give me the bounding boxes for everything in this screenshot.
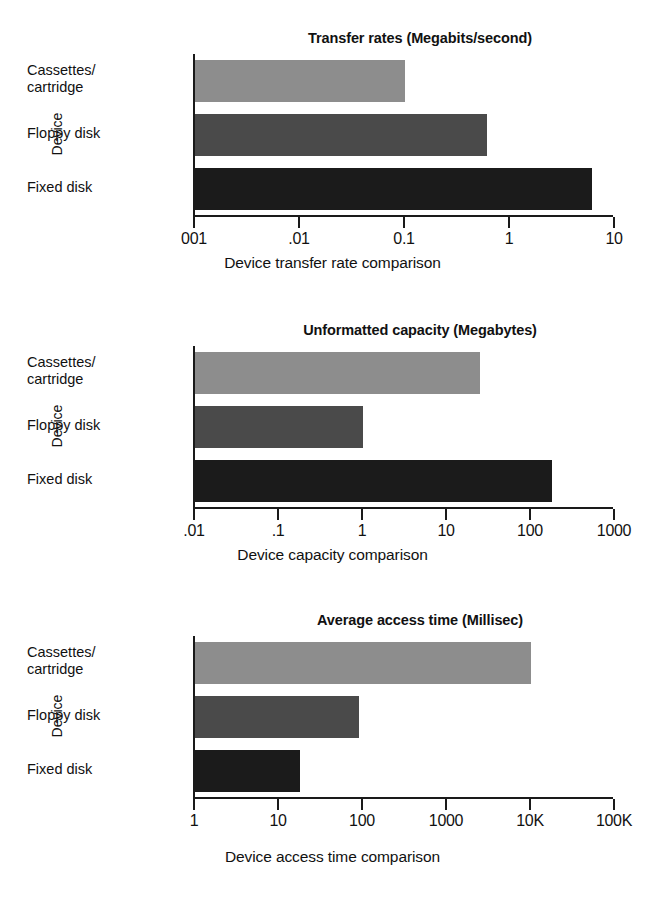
category-label: Fixed disk	[27, 471, 207, 488]
chart-transfer-rates: Transfer rates (Megabits/second) Device …	[0, 18, 665, 298]
x-axis-tick-label: 10	[437, 522, 454, 540]
x-axis-tick	[613, 799, 615, 810]
x-axis-line	[193, 507, 613, 509]
chart-title: Transfer rates (Megabits/second)	[200, 30, 640, 46]
x-axis-tick-label: 0.1	[393, 230, 414, 248]
chart-caption: Device transfer rate comparison	[0, 254, 665, 272]
x-axis-tick	[361, 799, 363, 810]
x-axis-tick-label: 100	[349, 812, 375, 830]
plot-area: 110100100010K100K	[193, 636, 613, 799]
category-label: Cassettes/ cartridge	[27, 354, 207, 388]
x-axis-tick-label: 1000	[429, 812, 463, 830]
category-label: Cassettes/ cartridge	[27, 644, 207, 678]
x-axis-tick	[277, 799, 279, 810]
x-axis-tick-label: 100K	[596, 812, 632, 830]
bar	[195, 460, 552, 502]
bar	[195, 352, 480, 394]
x-axis-tick-label: 100	[517, 522, 543, 540]
category-label: Fixed disk	[27, 179, 207, 196]
x-axis-tick-label: 1	[505, 230, 514, 248]
category-label: Floppy disk	[27, 125, 207, 142]
x-axis-tick	[403, 217, 405, 228]
chart-title: Unformatted capacity (Megabytes)	[200, 322, 640, 338]
x-axis-tick	[193, 217, 195, 228]
x-axis-tick	[508, 217, 510, 228]
bar	[195, 406, 363, 448]
x-axis-tick	[445, 799, 447, 810]
bar	[195, 696, 359, 738]
x-axis-tick-label: 10K	[516, 812, 544, 830]
x-axis-tick	[529, 799, 531, 810]
figure-page: Transfer rates (Megabits/second) Device …	[0, 0, 665, 916]
chart-title: Average access time (Millisec)	[200, 612, 640, 628]
x-axis-tick	[613, 217, 615, 228]
category-label: Cassettes/ cartridge	[27, 62, 207, 96]
chart-average-access-time: Average access time (Millisec) Device 11…	[0, 600, 665, 900]
plot-area: .01.11101001000	[193, 346, 613, 509]
bar	[195, 168, 592, 210]
x-axis-tick-label: .01	[183, 522, 204, 540]
category-label: Floppy disk	[27, 417, 207, 434]
category-label: Floppy disk	[27, 707, 207, 724]
x-axis-tick-label: 1	[190, 812, 199, 830]
x-axis-tick	[298, 217, 300, 228]
x-axis-tick-label: 1	[358, 522, 367, 540]
bar	[195, 114, 487, 156]
x-axis-tick-label: .1	[272, 522, 285, 540]
x-axis-tick	[193, 799, 195, 810]
bar	[195, 642, 531, 684]
x-axis-tick	[277, 509, 279, 520]
x-axis-tick-label: 10	[269, 812, 286, 830]
x-axis-tick-label: 10	[605, 230, 622, 248]
x-axis-tick-label: 001	[181, 230, 207, 248]
chart-unformatted-capacity: Unformatted capacity (Megabytes) Device …	[0, 310, 665, 590]
plot-area: 001.010.1110	[193, 54, 613, 217]
chart-caption: Device access time comparison	[0, 848, 665, 866]
x-axis-tick	[193, 509, 195, 520]
x-axis-tick	[361, 509, 363, 520]
category-label: Fixed disk	[27, 761, 207, 778]
x-axis-tick-label: .01	[288, 230, 309, 248]
bar	[195, 60, 405, 102]
chart-caption: Device capacity comparison	[0, 546, 665, 564]
x-axis-tick	[529, 509, 531, 520]
bar	[195, 750, 300, 792]
x-axis-tick-label: 1000	[597, 522, 631, 540]
x-axis-line	[193, 797, 613, 799]
x-axis-tick	[613, 509, 615, 520]
x-axis-tick	[445, 509, 447, 520]
